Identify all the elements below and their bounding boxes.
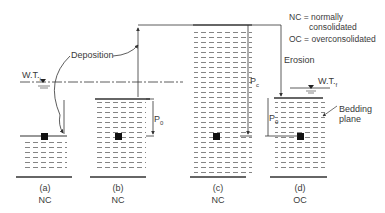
bedding-plane-pointer xyxy=(323,106,337,116)
legend-oc: OC = overconsolidated xyxy=(289,34,376,44)
deposition-label: Deposition xyxy=(71,51,114,60)
panel-c-soil xyxy=(190,25,252,177)
panel-b-caption: (b) NC xyxy=(98,184,138,205)
panel-d-caption: (d) OC xyxy=(280,184,320,205)
p0-label-b: P0 xyxy=(154,115,163,126)
panel-a-caption: (a) NC xyxy=(25,184,65,205)
soil-element-a xyxy=(41,133,48,140)
panel-a-soil xyxy=(16,133,72,177)
soil-element-d xyxy=(297,133,304,140)
panel-b-soil xyxy=(90,99,154,177)
bedding-plane-label: Bedding plane xyxy=(339,104,372,124)
panel-c-caption: (c) NC xyxy=(198,184,238,205)
panel-d-soil xyxy=(265,98,327,177)
wt-initial-label: W.T.i xyxy=(22,71,41,82)
soil-element-b xyxy=(115,133,122,140)
erosion-label: Erosion xyxy=(284,56,315,65)
soil-element-c xyxy=(213,133,220,140)
legend-nc: NC = normally consolidated xyxy=(289,12,357,32)
wt-final-label: W.T.f xyxy=(318,77,337,88)
pc-label: Pc xyxy=(250,77,259,88)
p0-label-d: P0 xyxy=(269,114,278,125)
